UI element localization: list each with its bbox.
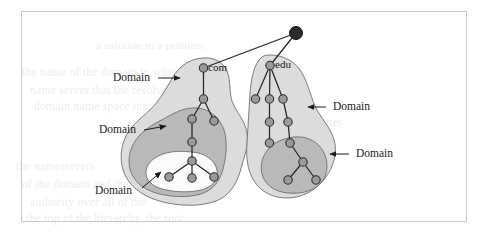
- edu-node[interactable]: [266, 61, 274, 69]
- edge-edu-e2: [270, 66, 271, 100]
- edu-child-node-4[interactable]: [265, 118, 273, 126]
- com-child-node-2[interactable]: [188, 115, 196, 123]
- com-child-node-5[interactable]: [188, 157, 196, 165]
- edu-child-node-3[interactable]: [279, 95, 287, 103]
- edu-child-node-7[interactable]: [286, 139, 294, 147]
- edu-child-node-5[interactable]: [284, 118, 292, 126]
- com-child-node-4[interactable]: [188, 138, 196, 146]
- edu-leaf-node-2[interactable]: [312, 176, 320, 184]
- com-node[interactable]: [199, 64, 207, 72]
- com-child-node-1[interactable]: [199, 95, 207, 103]
- com-label: com: [208, 61, 227, 73]
- com-child-node-3[interactable]: [210, 117, 218, 125]
- edu-leaf-node-1[interactable]: [284, 176, 292, 184]
- domain-label-top-left: Domain: [113, 71, 150, 83]
- com-leaf-node-3[interactable]: [210, 173, 218, 181]
- domain-label-mid-left: Domain: [99, 123, 136, 135]
- edu-child-node-1[interactable]: [251, 95, 259, 103]
- com-leaf-node-1[interactable]: [165, 173, 173, 181]
- domain-label-bottom-left: Domain: [95, 184, 132, 196]
- edu-label: edu: [275, 58, 291, 70]
- edu-child-node-6[interactable]: [265, 139, 273, 147]
- com-leaf-node-2[interactable]: [188, 174, 196, 182]
- domain-hierarchy-diagram: [0, 0, 484, 243]
- edu-child-node-2[interactable]: [265, 95, 273, 103]
- domain-label-top-right: Domain: [333, 100, 370, 112]
- edu-child-node-8[interactable]: [299, 158, 307, 166]
- figure-page: a solution to a problemthe name of the d…: [0, 0, 484, 243]
- root-node[interactable]: [290, 27, 303, 40]
- domain-label-bottom-right: Domain: [356, 147, 393, 159]
